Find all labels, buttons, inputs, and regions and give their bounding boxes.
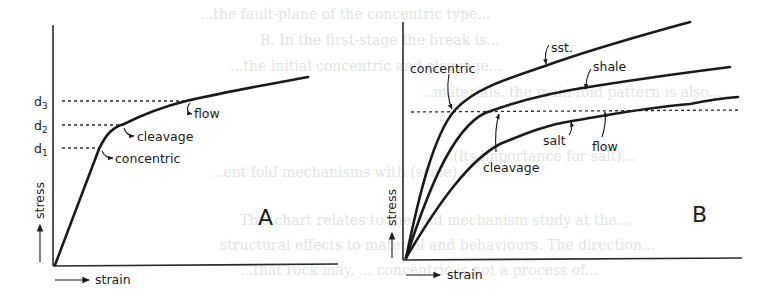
stress-label-a: stress bbox=[32, 182, 47, 219]
flow-label-b: flow bbox=[592, 139, 618, 154]
stress-strain-curve-a bbox=[55, 77, 308, 265]
strain-label-b: strain bbox=[447, 267, 483, 282]
panel-label-a: A bbox=[258, 205, 273, 230]
curve-salt bbox=[406, 97, 738, 258]
panel-a: d3 d2 d1 flow cleavage concentric stress… bbox=[32, 25, 338, 287]
stress-label-b: stress bbox=[384, 189, 399, 226]
cleavage-label-b: cleavage bbox=[483, 160, 540, 175]
cleavage-label-a: cleavage bbox=[137, 129, 194, 144]
shale-label: shale bbox=[593, 59, 627, 74]
level-d2-label: d2 bbox=[34, 118, 48, 135]
salt-pointer bbox=[569, 122, 572, 135]
flow-label-a: flow bbox=[194, 106, 220, 121]
stress-strain-figure: ...the fault-plane of the concentric typ… bbox=[0, 0, 778, 306]
x-axis-a bbox=[53, 264, 338, 266]
level-d1-label: d1 bbox=[34, 141, 48, 158]
panel-b: sst. shale salt concentric cleavage flow… bbox=[384, 22, 742, 282]
level-d3-label: d3 bbox=[34, 94, 48, 111]
curve-shale bbox=[406, 67, 730, 258]
threshold-line-b bbox=[411, 110, 738, 112]
concentric-label-b: concentric bbox=[410, 61, 475, 76]
x-axis-b bbox=[403, 258, 742, 260]
sst-label: sst. bbox=[551, 40, 573, 55]
panel-label-b: B bbox=[692, 202, 707, 227]
concentric-pointer-a bbox=[102, 151, 113, 158]
salt-label: salt bbox=[543, 133, 566, 148]
cleavage-pointer-a bbox=[124, 128, 134, 136]
chart-canvas: d3 d2 d1 flow cleavage concentric stress… bbox=[0, 0, 778, 306]
strain-label-a: strain bbox=[95, 272, 131, 287]
concentric-pointer-b bbox=[448, 74, 452, 109]
flow-pointer-a bbox=[188, 103, 192, 114]
concentric-label-a: concentric bbox=[115, 151, 180, 166]
sst-pointer bbox=[545, 45, 549, 64]
